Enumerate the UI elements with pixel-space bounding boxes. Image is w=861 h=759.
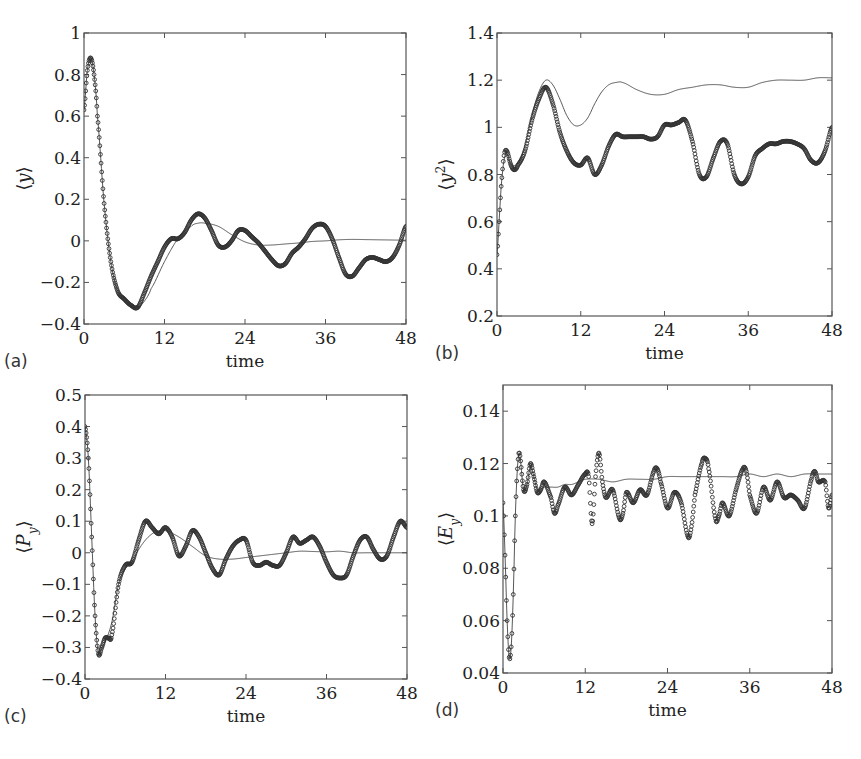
x-tick-label: 24 bbox=[657, 677, 679, 697]
x-tick-label: 24 bbox=[234, 328, 256, 348]
x-tick-label: 12 bbox=[154, 328, 176, 348]
y-tick-label: 0.6 bbox=[467, 212, 494, 232]
panel-a: 012243648−0.4−0.200.20.40.60.81time(a)⟨y… bbox=[4, 23, 417, 371]
y-tick-label: 1 bbox=[483, 117, 494, 137]
y-tick-label: 0.3 bbox=[55, 448, 82, 468]
y-tick-label: 0.2 bbox=[467, 306, 494, 326]
y-tick-label: 0.1 bbox=[473, 506, 500, 526]
y-tick-label: 0.5 bbox=[55, 385, 82, 405]
y-tick-label: −0.4 bbox=[41, 669, 82, 689]
plot-frame bbox=[84, 33, 406, 324]
y-axis-label: ⟨y2⟩ bbox=[434, 159, 456, 191]
approximation-line bbox=[497, 78, 832, 255]
y-tick-label: −0.2 bbox=[40, 272, 81, 292]
y-tick-label: −0.1 bbox=[41, 574, 82, 594]
x-tick-label: 48 bbox=[821, 677, 843, 697]
x-tick-label: 36 bbox=[316, 683, 338, 703]
y-tick-label: 1.4 bbox=[467, 23, 494, 43]
x-tick-label: 24 bbox=[235, 683, 257, 703]
y-tick-label: −0.4 bbox=[40, 314, 81, 334]
panel-c: 012243648−0.4−0.3−0.2−0.100.10.20.30.40.… bbox=[4, 385, 418, 726]
y-tick-label: 0.04 bbox=[462, 663, 500, 683]
exact-markers bbox=[83, 425, 409, 658]
panel-b: 0122436480.20.40.60.811.21.4time(b)⟨y2⟩ bbox=[434, 23, 843, 363]
y-tick-label: 0 bbox=[70, 231, 81, 251]
panel-letter: (d) bbox=[435, 700, 459, 720]
x-tick-label: 12 bbox=[570, 320, 592, 340]
exact-markers bbox=[82, 56, 408, 310]
y-tick-label: 0.6 bbox=[54, 106, 81, 126]
plot-frame bbox=[503, 385, 832, 673]
y-tick-label: 0.2 bbox=[54, 189, 81, 209]
y-tick-label: 0.2 bbox=[55, 480, 82, 500]
x-tick-label: 24 bbox=[654, 320, 676, 340]
panel-d: 0122436480.040.060.080.10.120.14time(d)⟨… bbox=[435, 385, 843, 720]
y-tick-label: 0 bbox=[71, 543, 82, 563]
figure: 012243648−0.4−0.200.20.40.60.81time(a)⟨y… bbox=[0, 0, 861, 759]
panel-letter: (b) bbox=[435, 343, 459, 363]
y-axis-label: ⟨Ey⟩ bbox=[435, 512, 462, 546]
x-axis-label: time bbox=[227, 706, 265, 726]
y-tick-label: 0.4 bbox=[54, 148, 81, 168]
y-tick-label: 0.4 bbox=[467, 259, 494, 279]
y-tick-label: 0.14 bbox=[462, 401, 500, 421]
y-tick-label: 0.4 bbox=[55, 417, 82, 437]
x-axis-label: time bbox=[226, 351, 264, 371]
y-axis-label: ⟨y⟩ bbox=[13, 166, 34, 190]
x-axis-label: time bbox=[645, 343, 683, 363]
x-tick-label: 12 bbox=[574, 677, 596, 697]
x-tick-label: 36 bbox=[739, 677, 761, 697]
y-tick-label: 0.06 bbox=[462, 611, 500, 631]
y-tick-label: 0.12 bbox=[462, 454, 500, 474]
x-tick-label: 48 bbox=[396, 683, 418, 703]
panel-letter: (a) bbox=[4, 351, 28, 371]
y-tick-label: 0.8 bbox=[54, 65, 81, 85]
y-axis-label: ⟨Py⟩ bbox=[13, 521, 40, 554]
y-tick-label: −0.3 bbox=[41, 637, 82, 657]
x-tick-label: 36 bbox=[315, 328, 337, 348]
x-tick-label: 36 bbox=[737, 320, 759, 340]
y-tick-label: 0.08 bbox=[462, 558, 500, 578]
panel-letter: (c) bbox=[4, 706, 27, 726]
plot-frame bbox=[497, 33, 832, 316]
x-tick-label: 48 bbox=[821, 320, 843, 340]
y-tick-label: 0.1 bbox=[55, 511, 82, 531]
y-tick-label: 0.8 bbox=[467, 165, 494, 185]
y-tick-label: 1 bbox=[70, 23, 81, 43]
y-tick-label: 1.2 bbox=[467, 70, 494, 90]
y-tick-label: −0.2 bbox=[41, 606, 82, 626]
x-tick-label: 48 bbox=[395, 328, 417, 348]
exact-markers bbox=[495, 85, 834, 256]
x-axis-label: time bbox=[648, 700, 686, 720]
approximation-line bbox=[503, 453, 832, 659]
x-tick-label: 12 bbox=[155, 683, 177, 703]
exact-markers bbox=[501, 451, 834, 661]
